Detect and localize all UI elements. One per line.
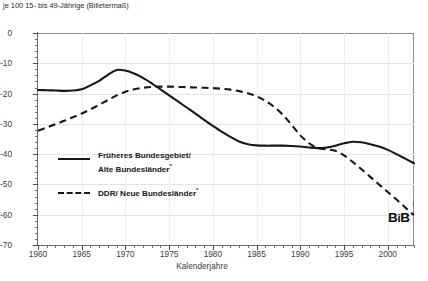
x-tick-1964	[73, 245, 74, 248]
y-tick-label-70: -70	[0, 240, 12, 250]
y-tick-label-0: 0	[7, 28, 12, 38]
x-tick-label-1975: 1975	[160, 249, 178, 259]
x-tick-1982	[230, 245, 231, 248]
x-tick-2003	[414, 245, 415, 248]
x-tick-label-1985: 1985	[247, 249, 265, 259]
x-tick-1987	[274, 245, 275, 248]
x-tick-1968	[108, 245, 109, 248]
x-tick-1969	[117, 245, 118, 248]
x-tick-1966	[90, 245, 91, 248]
x-tick-1979	[204, 245, 205, 248]
x-tick-1996	[353, 245, 354, 248]
legend-label-line1: Früheres Bundesgebiet/	[98, 151, 191, 160]
x-tick-1992	[318, 245, 319, 248]
x-tick-1988	[283, 245, 284, 248]
x-tick-1986	[265, 245, 266, 248]
chart-figure: nettoreproduktionsrate und Geburtenbilan…	[0, 0, 428, 281]
x-tick-1973	[152, 245, 153, 248]
x-tick-label-1995: 1995	[335, 249, 353, 259]
x-tick-1999	[379, 245, 380, 248]
x-tick-label-1960: 1960	[29, 249, 47, 259]
y-tick-label-60: -60	[0, 210, 12, 220]
legend-swatch-solid	[58, 158, 90, 160]
x-tick-label-1970: 1970	[116, 249, 134, 259]
x-tick-label-1980: 1980	[204, 249, 222, 259]
y-tick-label-30: -30	[0, 119, 12, 129]
bib-logo-b2: B	[400, 210, 409, 225]
x-tick-1977	[187, 245, 188, 248]
y-tick-label-40: -40	[0, 149, 12, 159]
x-tick-1972	[143, 245, 144, 248]
x-tick-1994	[335, 245, 336, 248]
legend-footnote-mark-1: *	[170, 163, 172, 169]
x-tick-1962	[55, 245, 56, 248]
y-tick-label-50: -50	[0, 179, 12, 189]
x-tick-1984	[248, 245, 249, 248]
bib-logo: BiB	[388, 210, 410, 225]
x-tick-1971	[134, 245, 135, 248]
x-axis-line	[37, 245, 415, 246]
x-tick-2002	[405, 245, 406, 248]
x-tick-2001	[397, 245, 398, 248]
y-tick-label-20: -20	[0, 89, 12, 99]
x-tick-1976	[178, 245, 179, 248]
x-tick-1993	[327, 245, 328, 248]
legend-label-ddr-neue-bundeslaender: DDR/ Neue Bundesländer*	[98, 185, 198, 199]
legend-label-line1-ddr: DDR/ Neue Bundesländer	[98, 189, 196, 198]
caption-block: nettoreproduktionsrate und Geburtenbilan…	[0, 0, 428, 22]
x-tick-1974	[160, 245, 161, 248]
chart-legend: Früheres Bundesgebiet/ Alte Bundesländer…	[58, 152, 248, 208]
x-tick-1998	[370, 245, 371, 248]
legend-label-frueheres-bundesgebiet: Früheres Bundesgebiet/ Alte Bundesländer…	[98, 151, 191, 176]
x-tick-1989	[292, 245, 293, 248]
x-axis-title: Kalenderjahre	[0, 261, 428, 271]
x-tick-label-1965: 1965	[72, 249, 90, 259]
x-tick-1991	[309, 245, 310, 248]
legend-footnote-mark-2: *	[196, 187, 198, 193]
caption-visible-line: je 100 15- bis 49-Jährige (Billetermaß)	[3, 1, 129, 10]
x-tick-label-2000: 2000	[379, 249, 397, 259]
legend-swatch-dashed	[58, 192, 90, 194]
x-tick-1967	[99, 245, 100, 248]
x-tick-1978	[195, 245, 196, 248]
legend-item-ddr-neue-bundeslaender: DDR/ Neue Bundesländer*	[58, 186, 248, 208]
y-tick-label-10: -10	[0, 58, 12, 68]
series-line-frueheres-bundesgebiet	[38, 70, 414, 164]
x-tick-1981	[222, 245, 223, 248]
x-tick-1983	[239, 245, 240, 248]
x-tick-label-1990: 1990	[291, 249, 309, 259]
legend-item-frueheres-bundesgebiet: Früheres Bundesgebiet/ Alte Bundesländer…	[58, 152, 248, 174]
legend-label-line2: Alte Bundesländer	[98, 165, 170, 174]
series-layer	[38, 33, 414, 245]
x-tick-1997	[362, 245, 363, 248]
x-tick-1961	[47, 245, 48, 248]
x-tick-1963	[64, 245, 65, 248]
